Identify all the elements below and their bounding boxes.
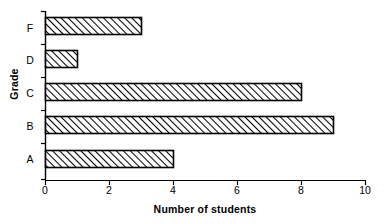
bar-c [46,84,302,101]
bars [46,18,334,168]
x-tick-label-0: 0 [42,184,48,196]
bar-a [46,151,174,168]
x-tick-label-4: 4 [170,184,176,196]
x-tick-label-2: 2 [106,184,112,196]
bar-f [46,18,142,35]
x-tick-label-10: 10 [359,184,371,196]
bar-d [46,51,78,68]
x-axis-tick-labels: 0 2 4 6 8 10 [0,184,387,200]
x-tick-label-6: 6 [234,184,240,196]
x-tick-label-8: 8 [298,184,304,196]
bar-chart: Grade F D C B A [0,0,387,224]
x-axis-title: Number of students [45,203,365,215]
bar-b [46,117,334,134]
